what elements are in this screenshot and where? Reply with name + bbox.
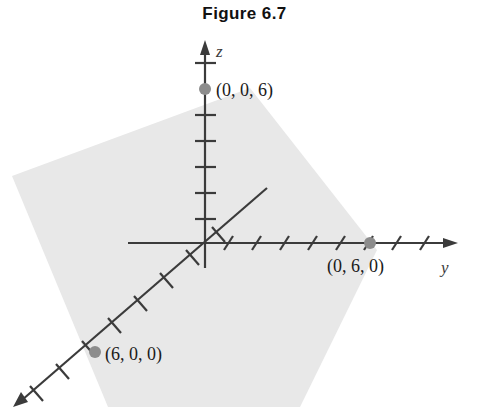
- point-marker-y-intercept: [364, 237, 376, 249]
- shaded-plane: [12, 88, 377, 407]
- x-axis-arrowhead: [13, 392, 28, 407]
- z-axis-arrowhead: [200, 40, 210, 55]
- y-axis-label: y: [439, 258, 449, 277]
- figure-container: Figure 6.7: [0, 0, 489, 407]
- point-marker-z-intercept: [199, 83, 211, 95]
- point-marker-x-intercept: [89, 346, 101, 358]
- point-label-z-intercept: (0, 0, 6): [216, 80, 273, 101]
- coordinate-plane-diagram: z y (0, 0, 6) (0, 6, 0) (6, 0, 0): [0, 0, 489, 407]
- point-label-x-intercept: (6, 0, 0): [105, 344, 162, 365]
- point-label-y-intercept: (0, 6, 0): [327, 256, 384, 277]
- z-axis-label: z: [215, 42, 223, 61]
- y-axis-arrowhead: [443, 238, 458, 248]
